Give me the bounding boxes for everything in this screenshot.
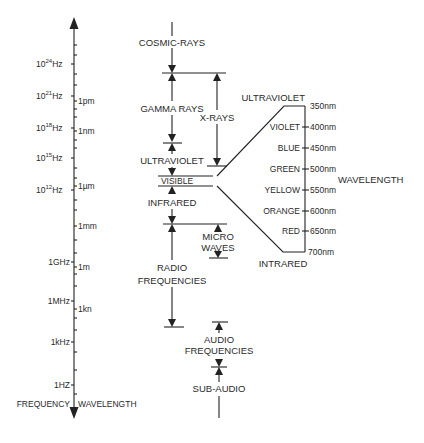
arrow-up-icon [168, 224, 176, 232]
detail-infrared-label: INTRARED [259, 258, 308, 269]
arrow-up-icon [168, 143, 176, 151]
band-ultraviolet: ULTRAVIOLET [140, 155, 204, 166]
frequency-label-1e21: 1021Hz [36, 90, 74, 101]
wavelength-700nm: 700nm [308, 247, 334, 257]
band-audio-line2: FREQUENCIES [185, 345, 254, 356]
band-micro-line1: MICRO [202, 231, 234, 242]
wavelength-400nm: 400nm [310, 122, 336, 132]
band-sub-audio: SUB-AUDIO [193, 383, 246, 394]
xrays-column: X-RAYS [200, 73, 235, 166]
svg-text:1m: 1m [78, 262, 90, 272]
frequency-label-1e15: 1015Hz [36, 152, 74, 163]
band-audio-line1: AUDIO [204, 334, 234, 345]
frequency-label-1mhz: 1MHz [48, 296, 74, 306]
color-yellow: YELLOW [265, 185, 300, 195]
frequency-label-1e24: 1024Hz [36, 58, 74, 69]
wavelength-500nm: 500nm [310, 164, 336, 174]
frequency-label-1hz: 1HZ [54, 380, 74, 390]
band-column: COSMIC-RAYS GAMMA RAYS ULTRAVIOLET VISIB… [138, 22, 227, 327]
wavelength-axis-title: WAVELENGTH [78, 399, 137, 409]
microwaves-column: MICRO WAVES [201, 224, 234, 258]
arrow-up-icon [168, 73, 176, 81]
arrow-down-icon [215, 359, 223, 367]
arrow-up-icon [168, 186, 176, 194]
band-visible: VISIBLE [161, 176, 193, 186]
wavelength-label-1m: 1m [74, 262, 90, 272]
svg-text:1HZ: 1HZ [54, 380, 70, 390]
svg-text:1pm: 1pm [78, 96, 95, 106]
band-x-rays: X-RAYS [200, 112, 235, 123]
svg-text:1kHz: 1kHz [51, 337, 70, 347]
wavelength-label-1um: 1µm [74, 181, 95, 191]
audio-column: AUDIO FREQUENCIES SUB-AUDIO [185, 322, 254, 418]
arrow-down-icon [213, 158, 221, 166]
arrow-down-icon [168, 319, 176, 327]
color-orange: ORANGE [263, 206, 300, 216]
color-red: RED [282, 226, 300, 236]
color-violet: VIOLET [270, 122, 300, 132]
arrow-down-icon [168, 168, 176, 176]
spectrum-axis: 1024Hz 1021Hz 1018Hz 1015Hz 1012Hz 1GHz … [17, 17, 137, 419]
svg-text:1µm: 1µm [78, 181, 95, 191]
detail-wavelength-label: WAVELENGTH [338, 174, 404, 185]
wavelength-label-1kn: 1kn [74, 304, 92, 314]
svg-text:1nm: 1nm [78, 126, 95, 136]
arrow-up-icon [215, 367, 223, 375]
color-green: GREEN [270, 164, 300, 174]
color-blue: BLUE [278, 143, 301, 153]
arrow-down-icon [168, 216, 176, 224]
band-radio-line2: FREQUENCIES [138, 275, 207, 286]
svg-text:1018Hz: 1018Hz [36, 122, 63, 133]
frequency-label-1ghz: 1GHz [48, 257, 74, 267]
wavelength-label-1nm: 1nm [74, 126, 95, 136]
wavelength-550nm: 550nm [310, 185, 336, 195]
electromagnetic-spectrum-diagram: 1024Hz 1021Hz 1018Hz 1015Hz 1012Hz 1GHz … [0, 0, 424, 443]
svg-text:1024Hz: 1024Hz [36, 58, 63, 69]
arrow-down-icon [168, 134, 176, 142]
frequency-label-1khz: 1kHz [51, 337, 74, 347]
wavelength-650nm: 650nm [310, 226, 336, 236]
wavelength-450nm: 450nm [310, 143, 336, 153]
arrow-down-icon [214, 251, 222, 258]
svg-text:1021Hz: 1021Hz [36, 90, 63, 101]
arrow-down-icon [168, 65, 176, 73]
wavelength-350nm: 350nm [310, 101, 336, 111]
band-infrared: INFRARED [148, 197, 197, 208]
detail-ultraviolet-label: ULTRAVIOLET [241, 92, 305, 103]
svg-text:1MHz: 1MHz [48, 296, 70, 306]
wavelength-label-1mm: 1mm [74, 221, 97, 231]
svg-text:1GHz: 1GHz [48, 257, 70, 267]
band-radio-line1: RADIO [157, 262, 187, 273]
axis-up-arrow-icon [70, 17, 79, 29]
band-cosmic-rays: COSMIC-RAYS [139, 37, 205, 48]
svg-text:1012Hz: 1012Hz [36, 184, 63, 195]
frequency-label-1e18: 1018Hz [36, 122, 74, 133]
svg-text:1mm: 1mm [78, 221, 97, 231]
band-gamma-rays: GAMMA RAYS [140, 103, 203, 114]
svg-text:1kn: 1kn [78, 304, 92, 314]
visible-detail: ULTRAVIOLET INTRARED WAVELENGTH 350nm VI… [217, 92, 404, 269]
frequency-label-1e12: 1012Hz [36, 184, 74, 195]
wavelength-600nm: 600nm [310, 206, 336, 216]
wavelength-label-1pm: 1pm [74, 96, 95, 106]
svg-text:1015Hz: 1015Hz [36, 152, 63, 163]
arrow-up-icon [215, 322, 223, 330]
arrow-up-icon [213, 73, 221, 81]
frequency-axis-title: FREQUENCY [17, 399, 71, 409]
